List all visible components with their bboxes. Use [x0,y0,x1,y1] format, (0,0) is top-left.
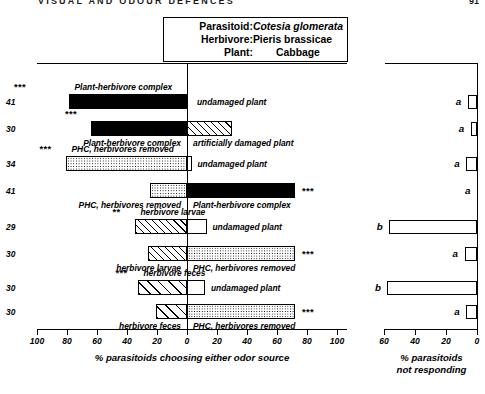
axis-tick [307,329,308,335]
group-letter-label: a [454,158,459,169]
axis-tick-label: 20 [441,336,451,346]
nonresponding-bar [468,95,477,109]
choice-bar-right [187,183,295,198]
nonresponding-bar [466,157,477,171]
significance-stars: *** [302,248,314,259]
choice-label-right: undamaged plant [211,283,280,293]
sample-size-label: 30 [6,249,15,259]
right-panel-zero-axis [477,63,478,329]
group-letter-label: a [459,123,464,134]
choice-bar-right [187,246,295,261]
significance-stars: ** [113,206,121,217]
axis-tick-label: 60 [92,336,102,346]
axis-tick [477,329,478,335]
figure-panel: VISUAL AND ODOUR DEFENCES 91 Parasitoid:… [0,0,485,394]
significance-stars: *** [302,306,314,317]
axis-tick [67,329,68,335]
legend-title-box: Parasitoid:Cotesia glomerataHerbivore:Pi… [163,17,348,62]
axis-tick [384,329,385,335]
group-letter-label: b [375,282,381,293]
sample-size-label: 41 [6,186,15,196]
significance-stars: *** [14,81,26,92]
right-axis-title-line1: % parasitoids [400,352,462,363]
sample-size-label: 30 [6,307,15,317]
axis-tick [37,329,38,335]
nonresponding-bar [466,305,477,319]
choice-label-right: undamaged plant [198,159,267,169]
choice-label-left: PHC, herbivores removed [72,144,174,154]
axis-tick-label: 60 [379,336,389,346]
significance-stars: *** [302,185,314,196]
axis-tick [446,329,447,335]
axis-tick-label: 80 [62,336,72,346]
group-letter-label: b [377,221,383,232]
choice-label-right: PHC, herbivores removed [193,263,295,273]
group-letter-label: a [453,248,458,259]
group-letter-label: a [454,306,459,317]
nonresponding-bar [465,247,477,261]
choice-bar-left [138,280,188,295]
axis-tick-label: 40 [122,336,132,346]
right-panel-axis-title: % parasitoids not responding [379,352,484,376]
running-head: VISUAL AND ODOUR DEFENCES [38,0,338,6]
axis-tick-label: 20 [212,336,222,346]
choice-label-left: Plant-herbivore complex [75,82,173,92]
axis-tick-label: 20 [152,336,162,346]
axis-tick [337,329,338,335]
left-panel-axis-title: % parasitoids choosing either odor sourc… [37,352,347,363]
group-letter-label: a [465,185,470,196]
significance-stars: *** [116,267,128,278]
axis-tick-label: 100 [330,336,344,346]
page-number: 91 [469,0,479,6]
axis-tick [97,329,98,335]
axis-tick-label: 80 [302,336,312,346]
choice-label-left: herbivore feces [119,321,181,331]
choice-label-right: PHC, herbivores removed [193,321,295,331]
axis-tick-label: 40 [410,336,420,346]
choice-bar-left [150,183,188,198]
choice-label-right: undamaged plant [213,222,282,232]
choice-bar-right [187,280,205,295]
title-key: Herbivore: [168,33,253,46]
sample-size-label: 29 [6,222,15,232]
axis-tick [415,329,416,335]
axis-tick-label: 0 [185,336,190,346]
axis-tick-label: 0 [475,336,480,346]
choice-bar-left [66,156,188,171]
axis-tick [187,329,188,335]
choice-label-right: artificially damaged plant [193,138,294,148]
title-row: Plant:Cabbage [168,46,343,59]
title-value: Cotesia glomerata [253,20,343,33]
title-key: Parasitoid: [168,20,253,33]
title-key: Plant: [168,46,253,59]
significance-stars: *** [40,143,52,154]
title-row: Parasitoid:Cotesia glomerata [168,20,343,33]
choice-bar-right [187,304,295,319]
title-value: Cabbage [253,46,343,59]
choice-label-right: Plant-herbivore complex [193,200,291,210]
sample-size-label: 30 [6,283,15,293]
title-value: Pieris brassicae [253,33,343,46]
axis-tick-label: 100 [30,336,44,346]
choice-label-left: herbivore feces [144,268,206,278]
choice-bar-right [187,219,207,234]
sample-size-label: 34 [6,159,15,169]
choice-bar-left [148,246,187,261]
axis-tick-label: 40 [242,336,252,346]
choice-bar-left [91,121,187,136]
significance-stars: *** [65,108,77,119]
right-axis-title-line2: not responding [397,364,467,375]
left-panel-x-axis [37,329,347,330]
left-panel-zero-axis [187,63,188,329]
choice-bar-left [156,304,188,319]
choice-label-left: herbivore larvae [141,207,206,217]
axis-tick-label: 60 [272,336,282,346]
right-panel-x-axis [385,329,478,330]
nonresponding-bar [389,220,477,234]
choice-bar-right [187,121,232,136]
sample-size-label: 30 [6,124,15,134]
choice-bar-left [135,219,188,234]
choice-bar-left [69,94,188,109]
sample-size-label: 41 [6,97,15,107]
group-letter-label: a [456,96,461,107]
